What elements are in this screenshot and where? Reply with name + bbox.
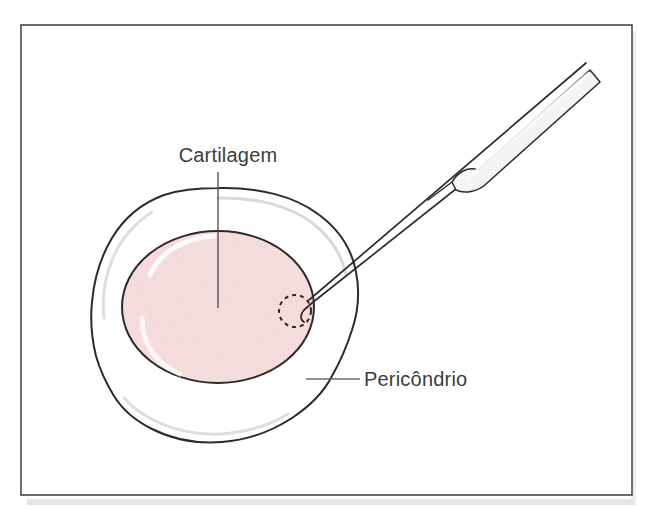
label-pericondrio: Pericôndrio bbox=[364, 368, 467, 390]
label-cartilagem: Cartilagem bbox=[179, 144, 278, 166]
figure-root: Cartilagem Pericôndrio bbox=[0, 0, 656, 509]
frame-shadow-bottom bbox=[27, 499, 635, 505]
anatomical-diagram: Cartilagem Pericôndrio bbox=[0, 0, 656, 509]
